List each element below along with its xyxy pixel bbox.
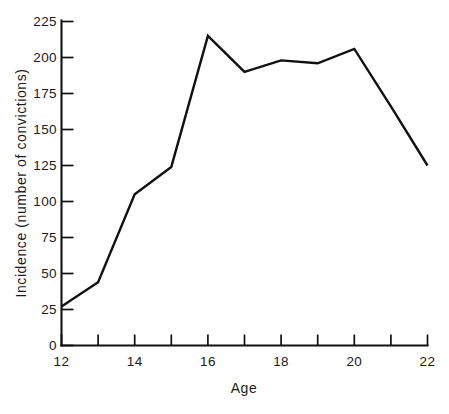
x-axis-title: Age bbox=[231, 380, 258, 396]
y-tick-label-175: 175 bbox=[33, 86, 57, 101]
y-tick-label-100: 100 bbox=[33, 194, 57, 209]
y-axis-title: Incidence (number of convictions) bbox=[13, 68, 29, 297]
y-tick-label-125: 125 bbox=[33, 158, 57, 173]
x-tick-label-22: 22 bbox=[420, 354, 436, 369]
y-tick-label-75: 75 bbox=[41, 230, 57, 245]
x-tick-label-14: 14 bbox=[127, 354, 143, 369]
y-tick-label-25: 25 bbox=[41, 302, 57, 317]
chart-figure: 0 25 50 75 100 125 150 175 200 225 bbox=[0, 0, 449, 414]
y-tick-label-225: 225 bbox=[33, 14, 57, 29]
y-tick-label-50: 50 bbox=[41, 266, 57, 281]
y-tick-label-200: 200 bbox=[33, 50, 57, 65]
incidence-by-age-line-chart: 0 25 50 75 100 125 150 175 200 225 bbox=[0, 0, 449, 414]
x-tick-label-18: 18 bbox=[273, 354, 289, 369]
y-tick-label-0: 0 bbox=[49, 338, 57, 353]
x-tick-label-16: 16 bbox=[200, 354, 216, 369]
x-tick-label-12: 12 bbox=[54, 354, 70, 369]
x-tick-label-20: 20 bbox=[346, 354, 362, 369]
chart-background bbox=[0, 0, 449, 414]
y-tick-label-150: 150 bbox=[33, 122, 57, 137]
